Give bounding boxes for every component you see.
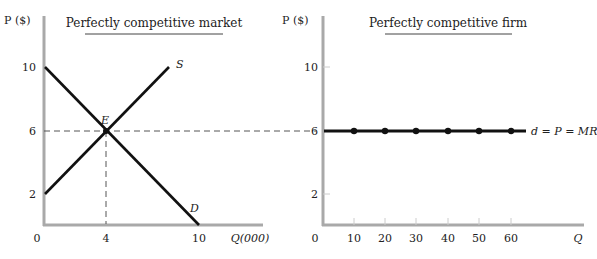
right-xtick-10: 10 bbox=[347, 232, 361, 245]
equilibrium-point bbox=[103, 128, 109, 134]
left-xtick-10: 10 bbox=[192, 232, 206, 245]
right-panel: Perfectly competitive firm P ($) 10 6 2 … bbox=[282, 14, 597, 245]
left-origin-label: 0 bbox=[34, 232, 41, 245]
firm-demand-label: d = P = MR bbox=[531, 125, 597, 138]
left-y-axis-label: P ($) bbox=[4, 14, 30, 27]
left-ytick-10: 10 bbox=[22, 61, 36, 74]
right-ytick-10: 10 bbox=[304, 61, 318, 74]
left-panel: Perfectly competitive market P ($) 10 6 … bbox=[4, 14, 316, 245]
right-xtick-40: 40 bbox=[441, 232, 455, 245]
right-ytick-2: 2 bbox=[311, 188, 318, 201]
right-y-axis-label: P ($) bbox=[282, 14, 308, 27]
supply-label: S bbox=[176, 58, 184, 71]
right-xtick-60: 60 bbox=[504, 232, 518, 245]
demand-label: D bbox=[189, 202, 199, 215]
equilibrium-label: E bbox=[100, 114, 109, 127]
demand-curve bbox=[45, 67, 199, 225]
chart-canvas: Perfectly competitive market P ($) 10 6 … bbox=[0, 0, 597, 259]
right-title: Perfectly competitive firm bbox=[369, 16, 528, 30]
left-ytick-2: 2 bbox=[29, 188, 36, 201]
firm-demand-point-50 bbox=[476, 128, 482, 134]
left-title: Perfectly competitive market bbox=[66, 16, 243, 30]
firm-demand-point-60 bbox=[508, 128, 514, 134]
right-ytick-6: 6 bbox=[311, 125, 318, 138]
right-xtick-50: 50 bbox=[472, 232, 486, 245]
left-x-axis-label: Q(000) bbox=[231, 232, 270, 245]
left-ytick-6: 6 bbox=[29, 125, 36, 138]
firm-demand-point-10 bbox=[351, 128, 357, 134]
right-xtick-20: 20 bbox=[378, 232, 392, 245]
firm-demand-point-20 bbox=[382, 128, 388, 134]
firm-demand-point-40 bbox=[445, 128, 451, 134]
left-xtick-4: 4 bbox=[103, 232, 110, 245]
right-origin-label: 0 bbox=[312, 232, 319, 245]
firm-demand-point-30 bbox=[413, 128, 419, 134]
right-x-axis-label: Q bbox=[573, 232, 582, 245]
right-xtick-30: 30 bbox=[409, 232, 423, 245]
